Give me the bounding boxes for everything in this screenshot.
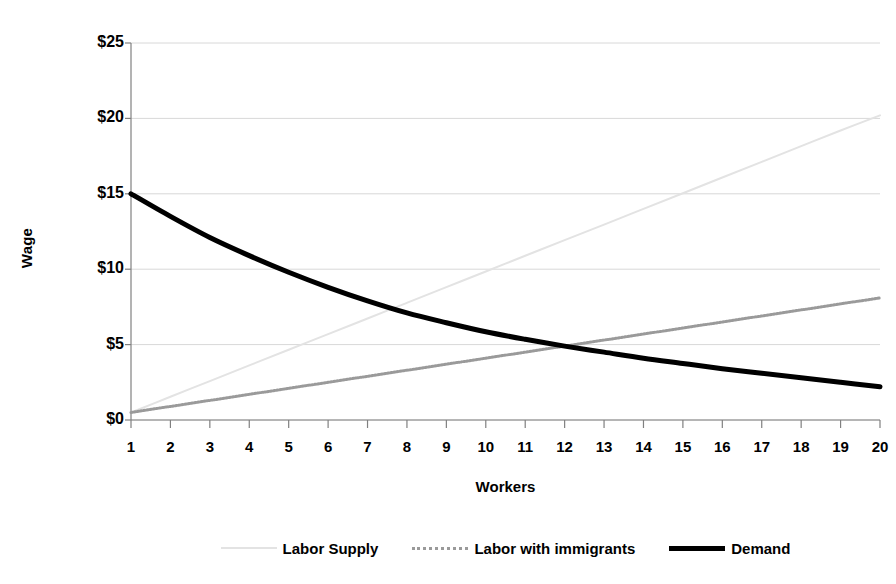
x-axis-tick-label: 9	[426, 438, 466, 455]
x-axis-tick-label: 4	[229, 438, 269, 455]
axis-lines	[125, 43, 880, 420]
x-axis-tick-label: 11	[505, 438, 545, 455]
legend-item[interactable]: Demand	[669, 540, 790, 557]
x-axis-tick-label: 14	[623, 438, 663, 455]
wage-labor-chart: Wage $0$5$10$15$20$25 123456789101112131…	[0, 0, 896, 584]
series-line-labor-with-immigrants	[131, 298, 880, 413]
legend-label: Labor Supply	[283, 540, 379, 557]
x-axis-tick-label: 16	[702, 438, 742, 455]
x-axis-tick-label: 18	[781, 438, 821, 455]
legend-item[interactable]: Labor Supply	[221, 540, 379, 557]
x-axis-tick-label: 5	[269, 438, 309, 455]
x-axis-tick-label: 1	[111, 438, 151, 455]
line-swatch-black	[669, 543, 725, 553]
x-axis-tick-label: 17	[742, 438, 782, 455]
x-axis-tick-label: 6	[308, 438, 348, 455]
series-lines	[131, 115, 880, 412]
series-line-labor-supply	[131, 115, 880, 412]
x-axis-tick-label: 13	[584, 438, 624, 455]
line-swatch-dotted-gray	[412, 543, 468, 553]
series-line-demand	[131, 194, 880, 387]
x-axis-tick-label: 8	[387, 438, 427, 455]
x-axis-tick-label: 2	[150, 438, 190, 455]
x-axis-tick-label: 19	[821, 438, 861, 455]
x-axis-tick-label: 3	[190, 438, 230, 455]
x-axis-tick-marks	[131, 420, 880, 428]
x-axis-tick-label: 12	[545, 438, 585, 455]
legend-label: Labor with immigrants	[474, 540, 635, 557]
gridlines	[131, 43, 880, 420]
line-swatch-light	[221, 543, 277, 553]
x-axis-tick-label: 15	[663, 438, 703, 455]
x-axis-tick-label: 7	[348, 438, 388, 455]
x-axis-title: Workers	[131, 478, 880, 495]
x-axis-tick-label: 20	[860, 438, 896, 455]
chart-legend: Labor SupplyLabor with immigrantsDemand	[131, 530, 880, 566]
legend-label: Demand	[731, 540, 790, 557]
x-axis-tick-label: 10	[466, 438, 506, 455]
plot-canvas	[0, 0, 896, 584]
legend-item[interactable]: Labor with immigrants	[412, 540, 635, 557]
